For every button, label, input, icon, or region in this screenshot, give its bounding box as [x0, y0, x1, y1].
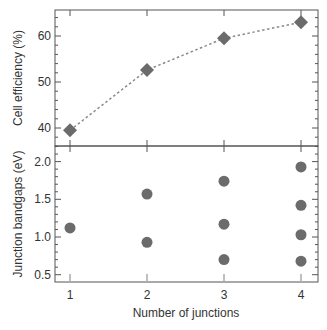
bandgap-marker	[142, 189, 153, 200]
diamond-marker	[294, 15, 308, 29]
chart: 4050600.51.01.52.01234 Cell efficiency (…	[0, 0, 327, 330]
diamond-marker	[140, 63, 154, 77]
bandgap-marker	[219, 176, 230, 187]
x-tick-label: 4	[298, 288, 305, 302]
tick-labels: 4050600.51.01.52.01234	[34, 29, 304, 302]
bandgap-marker	[219, 219, 230, 230]
bandgap-marker	[219, 254, 230, 265]
bottom-y-axis-label: Junction bandgaps (eV)	[11, 151, 25, 278]
x-axis-label: Number of junctions	[133, 306, 240, 320]
y-tick-label: 40	[38, 121, 52, 135]
y-tick-label: 0.5	[34, 268, 51, 282]
y-tick-label: 1.0	[34, 230, 51, 244]
diamond-marker	[217, 31, 231, 45]
bandgap-marker	[296, 229, 307, 240]
plot-frames	[55, 10, 318, 282]
bandgap-marker	[296, 200, 307, 211]
top-plot-frame	[55, 10, 318, 146]
x-tick-label: 3	[221, 288, 228, 302]
y-tick-label: 60	[38, 29, 52, 43]
efficiency-line	[70, 22, 301, 130]
bandgap-marker	[296, 161, 307, 172]
data-series	[63, 15, 308, 266]
bottom-plot-frame	[55, 146, 318, 282]
x-tick-label: 2	[144, 288, 151, 302]
bandgap-marker	[296, 256, 307, 267]
top-y-axis-label: Cell efficiency (%)	[11, 30, 25, 126]
bandgap-marker	[65, 222, 76, 233]
bandgap-marker	[142, 237, 153, 248]
diamond-marker	[63, 123, 77, 137]
x-tick-label: 1	[67, 288, 74, 302]
y-tick-label: 50	[38, 75, 52, 89]
y-tick-label: 1.5	[34, 192, 51, 206]
y-tick-label: 2.0	[34, 155, 51, 169]
